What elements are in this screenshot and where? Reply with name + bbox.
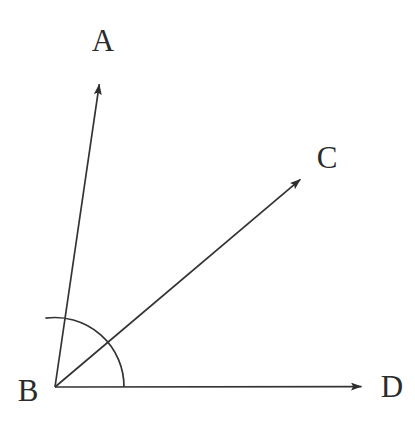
angle-diagram: A B C D [0,0,415,424]
point-label-b: B [18,375,39,406]
ray-bc [55,179,300,387]
point-label-a: A [92,25,114,56]
point-label-d: D [381,371,403,402]
ray-ba [55,84,99,387]
point-label-c: C [317,142,338,173]
geometry-canvas [0,0,415,424]
